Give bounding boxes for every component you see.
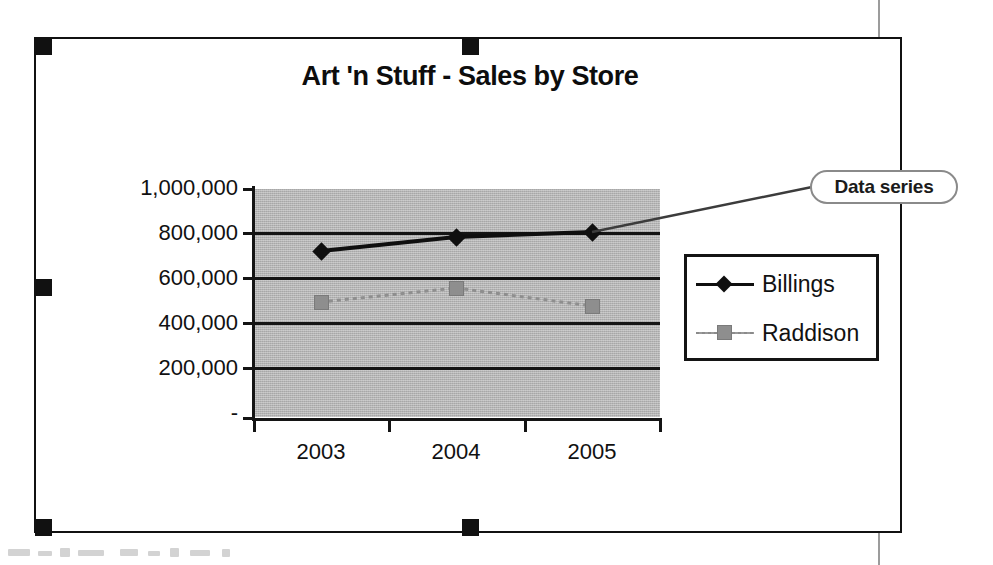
data-point-raddison-2005[interactable]: [585, 299, 600, 314]
chart-legend[interactable]: Billings Raddison: [684, 254, 879, 361]
y-tick-1000000: [243, 188, 254, 191]
y-axis-tick-label: 800,000: [38, 220, 238, 246]
y-axis-tick-label: 600,000: [38, 265, 238, 291]
x-tick-2: [524, 420, 527, 432]
y-axis-tick-label: 200,000: [38, 355, 238, 381]
chart-object[interactable]: Art 'n Stuff - Sales by Store 1,000,000 …: [34, 37, 902, 533]
legend-entry-raddison[interactable]: Raddison: [687, 313, 876, 353]
legend-key-raddison: [696, 322, 754, 344]
annotation-callout-data-series[interactable]: Data series: [810, 170, 958, 204]
data-point-raddison-2004[interactable]: [449, 281, 464, 296]
selection-handle-top-left[interactable]: [35, 38, 52, 55]
y-axis-tick-label: -: [38, 400, 238, 426]
y-axis-line[interactable]: [252, 186, 255, 421]
legend-entry-billings[interactable]: Billings: [687, 264, 876, 304]
legend-key-billings: [696, 273, 754, 295]
square-marker-icon: [717, 325, 732, 340]
x-tick-0: [253, 420, 256, 432]
selection-handle-middle-left[interactable]: [35, 279, 52, 296]
y-tick-800000: [243, 232, 254, 235]
legend-label-billings: Billings: [762, 271, 835, 298]
x-tick-1: [388, 420, 391, 432]
y-tick-200000: [243, 367, 254, 370]
x-axis-tick-label: 2003: [261, 439, 381, 465]
annotation-callout-label: Data series: [834, 176, 933, 198]
x-axis-line[interactable]: [252, 418, 662, 421]
legend-label-raddison: Raddison: [762, 320, 859, 347]
x-tick-3: [659, 420, 662, 432]
data-point-raddison-2003[interactable]: [314, 295, 329, 310]
gridline-200000: [254, 367, 660, 370]
y-axis-tick-label: 400,000: [38, 310, 238, 336]
x-axis-tick-label: 2004: [396, 439, 516, 465]
diamond-marker-icon: [716, 276, 733, 293]
gridline-600000: [254, 277, 660, 280]
selection-handle-bottom-middle[interactable]: [462, 519, 479, 536]
y-axis-tick-label: 1,000,000: [38, 175, 238, 201]
y-tick-400000: [243, 322, 254, 325]
y-tick-600000: [243, 277, 254, 280]
gridline-400000: [254, 322, 660, 325]
x-axis-tick-label: 2005: [532, 439, 652, 465]
selection-handle-bottom-left[interactable]: [35, 519, 52, 536]
scan-artifact: [8, 546, 268, 560]
selection-handle-top-middle[interactable]: [462, 38, 479, 55]
y-axis-labels: 1,000,000 800,000 600,000 400,000 200,00…: [36, 39, 238, 535]
